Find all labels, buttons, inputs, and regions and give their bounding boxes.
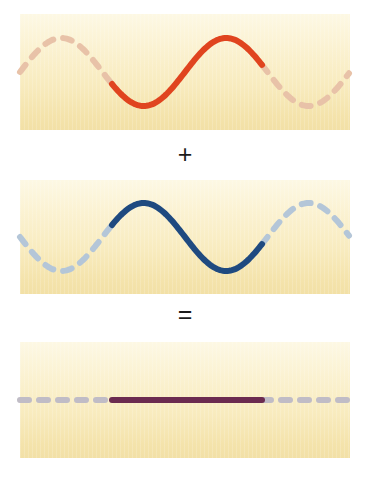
wave-dashed-segment-left (20, 38, 112, 83)
wave-solid-segment (112, 203, 262, 271)
wave-dashed-segment-right (262, 65, 349, 106)
wave-panel-red (20, 14, 350, 130)
wave-solid-segment (112, 38, 262, 106)
operator-equals: = (0, 302, 370, 327)
wave-panel-blue (20, 180, 350, 294)
wave-graphic-blue (20, 180, 350, 294)
wave-panel-result (20, 342, 350, 458)
wave-interference-figure: + = (0, 0, 370, 477)
wave-graphic-red (20, 14, 350, 130)
operator-plus: + (0, 142, 370, 167)
wave-graphic-result (20, 342, 350, 458)
wave-dashed-segment-left (20, 226, 112, 271)
wave-dashed-segment-right (262, 203, 349, 244)
